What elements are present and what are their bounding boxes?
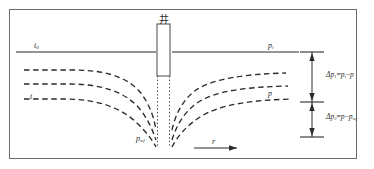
well-label: 井 bbox=[159, 11, 169, 26]
bracket2-arrow-up bbox=[309, 103, 314, 111]
t-curves-label: t bbox=[30, 92, 32, 101]
delta-p1-symbol: Δp bbox=[326, 70, 334, 79]
bracket1-arrow-down bbox=[309, 93, 314, 101]
p-initial-label: pi bbox=[268, 41, 273, 50]
wellbore-rect bbox=[157, 24, 170, 76]
delta-p1-annotation: Δp1=pi−p bbox=[326, 70, 354, 79]
diagram-graphics bbox=[0, 0, 374, 169]
drawdown-curve-3-right bbox=[172, 99, 292, 147]
drawdown-curve-1-right bbox=[172, 73, 286, 130]
p-average-label: p bbox=[268, 89, 272, 98]
p-wellflowing-label: pwf bbox=[136, 134, 145, 143]
delta-p1-rhs-second: p bbox=[350, 70, 354, 79]
t-zero-label: t0 bbox=[34, 41, 39, 50]
drawdown-curve-1-left bbox=[24, 70, 156, 130]
delta-p1-rhs-first-sub: i bbox=[344, 74, 345, 79]
p-wf-subscript: wf bbox=[140, 138, 145, 143]
delta-p2-rhs-second-sub: wf bbox=[352, 116, 356, 121]
figure-canvas: 井 t0 pi t p pwf r Δp1=pi−p Δp2=p−pwf bbox=[0, 0, 374, 169]
delta-p2-annotation: Δp2=p−pwf bbox=[326, 112, 357, 121]
p-initial-subscript: i bbox=[272, 45, 273, 50]
delta-p2-symbol: Δp bbox=[326, 112, 334, 121]
radius-axis-label: r bbox=[212, 137, 215, 146]
bracket2-arrow-down bbox=[309, 128, 314, 136]
radius-axis-arrowhead bbox=[229, 145, 237, 151]
bracket1-arrow-up bbox=[309, 53, 314, 61]
t-zero-subscript: 0 bbox=[36, 45, 38, 50]
drawdown-curve-2-left bbox=[24, 84, 156, 140]
